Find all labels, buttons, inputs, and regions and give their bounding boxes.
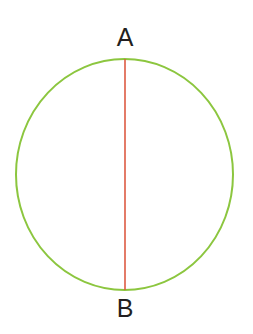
geometry-figure: A B (0, 0, 253, 334)
point-label-a: A (105, 25, 145, 50)
point-label-b: B (105, 296, 145, 321)
